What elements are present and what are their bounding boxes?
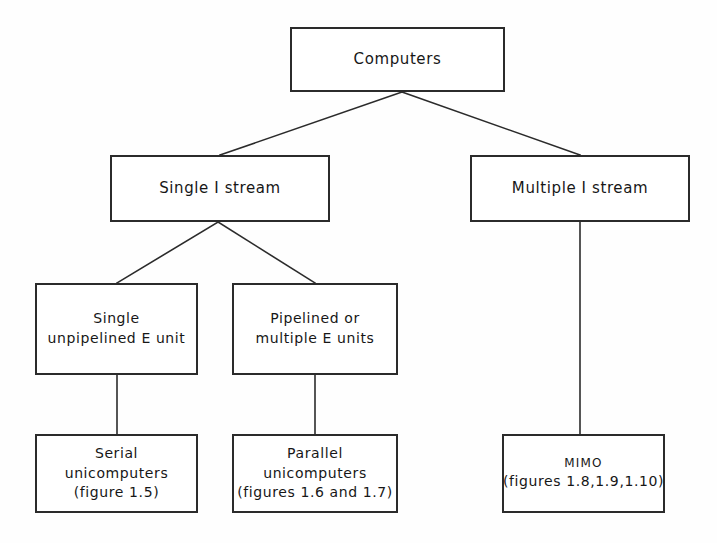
node-pipelined-or-multiple-e-units-line-1: multiple E units [256,329,375,349]
taxonomy-diagram: Computers Single I stream Multiple I str… [0,0,717,543]
node-serial-unicomputers-line-2: (figure 1.5) [74,483,159,503]
node-pipelined-or-multiple-e-units: Pipelined or multiple E units [232,283,398,375]
node-parallel-unicomputers-line-2: (figures 1.6 and 1.7) [237,483,393,503]
edge-computers-to-single-i-stream [220,92,402,155]
node-mimo: MIMO (figures 1.8,1.9,1.10) [502,434,665,513]
node-computers-line-0: Computers [354,49,442,70]
node-single-i-stream-line-0: Single I stream [159,178,281,199]
node-multiple-i-stream: Multiple I stream [470,155,690,222]
edge-computers-to-multiple-i-stream [402,92,580,155]
node-single-unpipelined-e-unit-line-0: Single [93,309,140,329]
node-parallel-unicomputers-line-0: Parallel [287,444,343,464]
node-single-unpipelined-e-unit-line-1: unpipelined E unit [48,329,186,349]
edge-single-i-stream-to-pipelined-multiple [218,222,315,283]
node-serial-unicomputers-line-0: Serial [95,444,138,464]
node-single-i-stream: Single I stream [110,155,330,222]
edge-single-i-stream-to-single-unpipelined [117,222,218,283]
node-computers: Computers [290,27,505,92]
node-multiple-i-stream-line-0: Multiple I stream [512,178,648,199]
node-serial-unicomputers-line-1: unicomputers [65,464,169,484]
node-pipelined-or-multiple-e-units-line-0: Pipelined or [270,309,360,329]
node-mimo-line-0: MIMO [564,455,603,472]
node-single-unpipelined-e-unit: Single unpipelined E unit [35,283,198,375]
node-parallel-unicomputers-line-1: unicomputers [263,464,367,484]
node-serial-unicomputers: Serial unicomputers (figure 1.5) [35,434,198,513]
node-mimo-line-1: (figures 1.8,1.9,1.10) [503,472,664,492]
node-parallel-unicomputers: Parallel unicomputers (figures 1.6 and 1… [232,434,398,513]
